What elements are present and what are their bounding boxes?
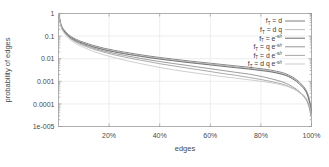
x-tick-label: 100% xyxy=(303,132,321,139)
x-tick-label: 20% xyxy=(102,132,116,139)
y-axis-tick-labels: 10.10.010.0010.00011e-005 xyxy=(33,10,55,130)
chart-plot: 20%40%60%80%100% 10.10.010.0010.00011e-0… xyxy=(0,0,329,167)
y-axis-title: probability of edges xyxy=(3,37,12,102)
y-tick-label: 1 xyxy=(51,10,55,17)
y-tick-label: 1e-005 xyxy=(33,123,55,130)
legend-label: fT = d xyxy=(266,17,282,26)
y-tick-label: 0.001 xyxy=(37,78,55,85)
y-tick-label: 0.0001 xyxy=(33,101,55,108)
chart-figure: 20%40%60%80%100% 10.10.010.0010.00011e-0… xyxy=(0,0,329,167)
y-tick-label: 0.1 xyxy=(45,33,55,40)
x-axis-title: edges xyxy=(175,144,196,153)
x-tick-label: 80% xyxy=(254,132,268,139)
x-axis-tick-labels: 20%40%60%80%100% xyxy=(102,132,320,139)
y-tick-label: 0.01 xyxy=(41,55,55,62)
chart-legend: fT = dfT = d qfT = e-s/rfT = q e-s/rfT =… xyxy=(248,17,305,69)
x-tick-label: 40% xyxy=(153,132,167,139)
x-tick-label: 60% xyxy=(203,132,217,139)
